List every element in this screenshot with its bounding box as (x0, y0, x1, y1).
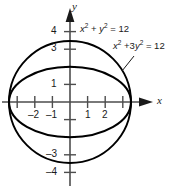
x-tick-label-neg1: –1 (46, 110, 57, 120)
y-tick-label-1: 1 (51, 79, 57, 89)
circle-eq-x-exp: 2 (85, 22, 89, 29)
x-tick-label-1: 1 (85, 110, 91, 120)
ellipse-equation-label: x2 +3y2 = 12 (113, 41, 165, 51)
circle-eq-value: 12 (118, 23, 129, 34)
circle-eq-equals: = (110, 23, 116, 34)
ellipse-eq-equals: = (146, 40, 152, 51)
ellipse-eq-x-exp: 2 (118, 39, 122, 46)
ellipse-leader-line (122, 56, 134, 71)
x-tick-label-2: 2 (102, 110, 108, 120)
x-axis-arrowhead (139, 98, 153, 107)
circle-eq-y-exp: 2 (104, 22, 108, 29)
x-axis-label: x (157, 95, 162, 106)
ellipse-eq-y-exp: 2 (140, 39, 144, 46)
circle-equation-label: x2 + y2 = 12 (80, 24, 129, 34)
y-tick-label-4: 4 (51, 26, 57, 36)
y-axis-label: y (72, 1, 77, 12)
y-tick-label-neg3: –3 (46, 149, 57, 159)
x-tick-label-neg2: –2 (28, 110, 39, 120)
y-tick-label-3: 3 (51, 43, 57, 53)
ellipse-eq-value: 12 (154, 40, 165, 51)
y-tick-label-neg4: –4 (46, 167, 57, 177)
graph-figure: y x 4 3 1 –3 –4 –2 –1 1 2 x2 + y2 = 12 x… (0, 0, 189, 188)
circle-eq-plus: + (91, 23, 97, 34)
